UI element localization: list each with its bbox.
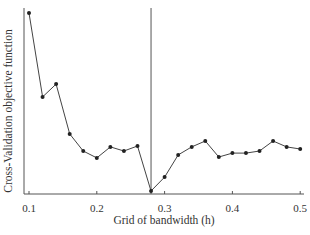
data-point bbox=[203, 139, 207, 143]
data-point bbox=[258, 149, 262, 153]
data-point bbox=[68, 132, 72, 136]
data-point bbox=[176, 153, 180, 157]
data-point bbox=[135, 144, 139, 148]
data-point bbox=[27, 11, 31, 15]
data-point bbox=[230, 151, 234, 155]
data-point bbox=[54, 82, 58, 86]
x-tick-label: 0.1 bbox=[22, 202, 36, 214]
data-point bbox=[95, 156, 99, 160]
x-tick-label: 0.2 bbox=[90, 202, 104, 214]
x-axis-label: Grid of bandwidth (h) bbox=[113, 214, 214, 227]
data-point bbox=[271, 139, 275, 143]
data-point bbox=[298, 147, 302, 151]
cv-line-chart: 0.10.20.30.40.5 Grid of bandwidth (h) Cr… bbox=[0, 0, 310, 235]
series-markers bbox=[27, 11, 302, 193]
data-point bbox=[285, 145, 289, 149]
series-line bbox=[29, 13, 300, 191]
data-point bbox=[122, 149, 126, 153]
data-point bbox=[81, 149, 85, 153]
data-point bbox=[149, 189, 153, 193]
data-point bbox=[41, 95, 45, 99]
axes bbox=[24, 8, 304, 194]
data-point bbox=[244, 151, 248, 155]
data-point bbox=[217, 155, 221, 159]
data-point bbox=[108, 145, 112, 149]
x-tick-label: 0.4 bbox=[226, 202, 240, 214]
x-tick-label: 0.5 bbox=[293, 202, 307, 214]
data-point bbox=[190, 145, 194, 149]
y-axis-label: Cross-Validation objective function bbox=[2, 29, 15, 193]
data-point bbox=[163, 175, 167, 179]
x-tick-label: 0.3 bbox=[158, 202, 172, 214]
